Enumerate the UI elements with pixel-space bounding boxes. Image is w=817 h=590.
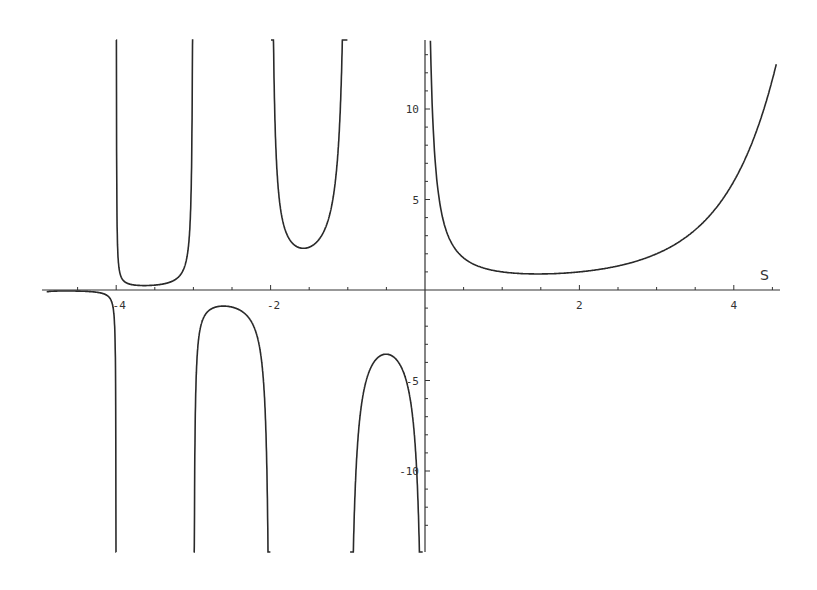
- gamma-curve-branch: [116, 40, 193, 286]
- gamma-curve-branch: [47, 291, 117, 552]
- x-axis-title: S: [760, 267, 769, 283]
- y-tick-label: -5: [406, 375, 419, 388]
- gamma-curve-branch: [430, 41, 776, 274]
- y-tick-label: 10: [406, 103, 419, 116]
- gamma-function-plot: -4-224105-5-10 S: [0, 0, 817, 590]
- y-tick-label: 5: [412, 194, 419, 207]
- gamma-curve-branch: [194, 306, 271, 552]
- gamma-curve-branch: [271, 40, 347, 248]
- y-tick-label: -10: [399, 465, 419, 478]
- x-tick-label: -2: [267, 299, 280, 312]
- x-tick-label: 2: [576, 299, 583, 312]
- x-tick-label: -4: [113, 299, 127, 312]
- x-tick-label: 4: [730, 299, 737, 312]
